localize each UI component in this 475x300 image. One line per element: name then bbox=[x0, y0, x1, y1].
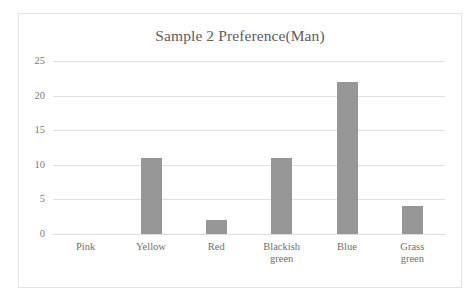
x-axis-tick-label: Blue bbox=[337, 241, 357, 253]
bar-yellow bbox=[141, 158, 162, 234]
y-axis-tick-label: 25 bbox=[35, 56, 46, 67]
y-axis-tick-label: 10 bbox=[35, 160, 46, 171]
gridline bbox=[53, 130, 445, 131]
bar-blackish-green bbox=[271, 158, 292, 234]
chart-frame: Sample 2 Preference(Man) 0510152025PinkY… bbox=[18, 13, 462, 288]
gridline bbox=[53, 234, 445, 235]
y-axis-tick-label: 15 bbox=[35, 125, 46, 136]
y-axis-tick-label: 5 bbox=[40, 194, 45, 205]
gridline bbox=[53, 165, 445, 166]
y-axis-tick-label: 0 bbox=[40, 229, 45, 240]
plot-area: 0510152025PinkYellowRedBlackish greenBlu… bbox=[53, 61, 445, 234]
gridline bbox=[53, 199, 445, 200]
x-axis-tick-label: Yellow bbox=[136, 241, 166, 253]
x-axis-tick-label: Blackish green bbox=[263, 241, 300, 266]
x-axis-tick-label: Red bbox=[208, 241, 225, 253]
gridline bbox=[53, 96, 445, 97]
bar-grass-green bbox=[402, 206, 423, 234]
bar-blue bbox=[337, 82, 358, 234]
x-axis-tick-label: Pink bbox=[76, 241, 95, 253]
y-axis-tick-label: 20 bbox=[35, 90, 46, 101]
chart-title: Sample 2 Preference(Man) bbox=[19, 27, 461, 45]
gridline bbox=[53, 61, 445, 62]
bar-red bbox=[206, 220, 227, 234]
x-axis-tick-label: Grass green bbox=[396, 241, 429, 266]
